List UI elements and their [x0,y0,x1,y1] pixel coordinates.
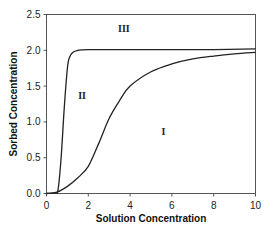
x-tick-label: 8 [211,200,217,211]
region-labels: IIIIII [78,23,165,136]
x-axis: 0246810 [44,194,262,211]
x-tick-label: 4 [127,200,133,211]
y-axis-label: Sorbed Concentration [8,51,19,156]
x-tick-label: 2 [86,200,92,211]
y-tick-label: 1.0 [27,116,41,127]
y-tick-label: 2.5 [27,9,41,20]
region-label-III: III [118,23,130,34]
y-tick-label: 0.0 [27,188,41,199]
region-label-I: I [162,126,166,137]
chart: 0.00.51.01.52.02.5 0246810 IIIIII Soluti… [0,0,273,236]
x-tick-label: 6 [169,200,175,211]
x-tick-label: 0 [44,200,50,211]
y-tick-label: 0.5 [27,152,41,163]
region-label-II: II [78,90,86,101]
y-tick-label: 1.5 [27,81,41,92]
curve-II-line [47,49,256,194]
y-tick-label: 2.0 [27,45,41,56]
plot-area-frame [47,15,256,194]
x-tick-label: 10 [250,200,262,211]
x-axis-label: Solution Concentration [96,213,207,224]
curve-I-line [47,52,256,193]
y-axis: 0.00.51.01.52.02.5 [27,9,47,199]
